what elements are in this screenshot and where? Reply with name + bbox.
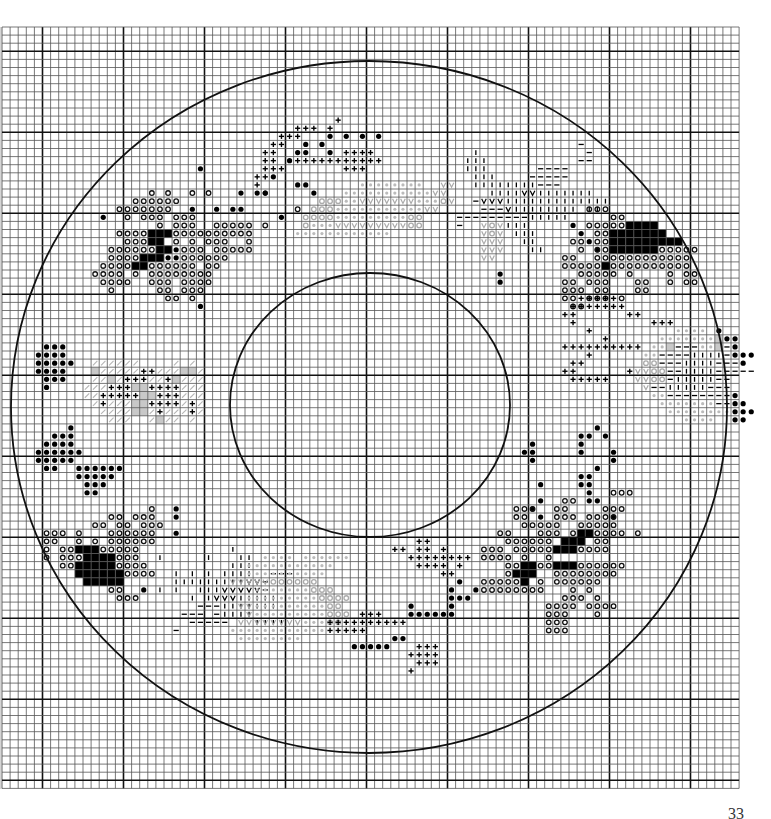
stitch-symbols bbox=[36, 118, 754, 674]
inner-circle bbox=[230, 273, 510, 537]
page-number: 33 bbox=[728, 806, 744, 819]
cross-stitch-chart bbox=[0, 0, 771, 819]
chart-grid bbox=[2, 27, 739, 788]
